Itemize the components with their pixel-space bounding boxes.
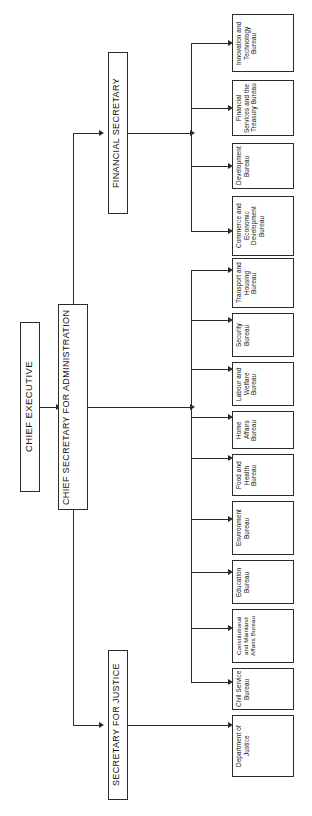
stub-csa-1 xyxy=(191,320,229,321)
label-constitutional-and-mainland-affairs-bureau: Constitutional and Mainland Affairs Bure… xyxy=(235,611,291,661)
label-home-affairs-bureau: Home Affairs Bureau xyxy=(235,413,291,447)
box-financial-services-and-the-treasury-bureau[interactable]: Financial Services and the Treasury Bure… xyxy=(232,80,294,136)
stub-csa-3 xyxy=(191,417,229,418)
label-environment-bureau: Environment Bureau xyxy=(235,503,291,553)
box-financial-secretary[interactable]: FINANCIAL SECRETARY xyxy=(108,52,128,214)
box-home-affairs-bureau[interactable]: Home Affairs Bureau xyxy=(232,411,294,449)
bus-chief-secretary xyxy=(191,270,192,682)
box-food-and-health-bureau[interactable]: Food and Health Bureau xyxy=(232,454,294,496)
label-education-bureau: Education Bureau xyxy=(235,562,291,602)
box-department-of-justice[interactable]: Department of Justice xyxy=(232,715,294,777)
label-financial-secretary: FINANCIAL SECRETARY xyxy=(111,78,125,188)
box-civil-service-bureau[interactable]: Civil Service Bureau xyxy=(232,668,294,710)
box-chief-secretary-for-administration[interactable]: CHIEF SECRETARY FOR ADMINISTRATION xyxy=(58,304,88,510)
box-innovation-and-technology-bureau[interactable]: Innovation and Technology Bureau xyxy=(232,14,294,72)
label-transport-and-housing-bureau: Transport and Housing Bureau xyxy=(235,260,291,306)
line-csa-to-fs xyxy=(73,133,100,134)
line-fs-trunk xyxy=(128,133,191,134)
box-secretary-for-justice[interactable]: SECRETARY FOR JUSTICE xyxy=(108,650,128,800)
label-development-bureau: Development Bureau xyxy=(235,145,291,187)
stub-csa-8 xyxy=(191,682,229,683)
box-constitutional-and-mainland-affairs-bureau[interactable]: Constitutional and Mainland Affairs Bure… xyxy=(232,609,294,663)
box-environment-bureau[interactable]: Environment Bureau xyxy=(232,501,294,555)
line-sj-trunk xyxy=(128,725,229,726)
box-development-bureau[interactable]: Development Bureau xyxy=(232,143,294,189)
stub-fs-0 xyxy=(191,43,229,44)
stub-csa-4 xyxy=(191,458,229,459)
box-education-bureau[interactable]: Education Bureau xyxy=(232,560,294,604)
spine-from-csa-lower xyxy=(73,510,74,725)
chart-canvas: CHIEF EXECUTIVE CHIEF SECRETARY FOR ADMI… xyxy=(0,0,312,816)
line-csa-to-sj xyxy=(73,725,100,726)
stub-fs-2 xyxy=(191,166,229,167)
box-transport-and-housing-bureau[interactable]: Transport and Housing Bureau xyxy=(232,258,294,308)
label-secretary-for-justice: SECRETARY FOR JUSTICE xyxy=(111,664,125,787)
stub-csa-5 xyxy=(191,519,229,520)
spine-from-csa xyxy=(73,133,74,304)
label-financial-services-and-the-treasury-bureau: Financial Services and the Treasury Bure… xyxy=(235,82,291,134)
stub-fs-1 xyxy=(191,108,229,109)
bus-financial-secretary xyxy=(191,43,192,231)
box-chief-executive[interactable]: CHIEF EXECUTIVE xyxy=(20,322,40,492)
stub-csa-6 xyxy=(191,572,229,573)
stub-csa-7 xyxy=(191,628,229,629)
label-civil-service-bureau: Civil Service Bureau xyxy=(235,670,291,708)
label-labour-and-welfare-bureau: Labour and Welfare Bureau xyxy=(235,364,291,404)
stub-fs-3 xyxy=(191,231,229,232)
stub-csa-0 xyxy=(191,270,229,271)
label-food-and-health-bureau: Food and Health Bureau xyxy=(235,456,291,494)
box-labour-and-welfare-bureau[interactable]: Labour and Welfare Bureau xyxy=(232,362,294,406)
label-chief-secretary-for-administration: CHIEF SECRETARY FOR ADMINISTRATION xyxy=(61,309,85,504)
label-commerce-and-economic-development-bureau: Commerce and Economic Development Bureau xyxy=(235,198,291,254)
label-chief-executive: CHIEF EXECUTIVE xyxy=(23,362,37,453)
box-security-bureau[interactable]: Security Bureau xyxy=(232,313,294,357)
arrow-csa-to-sj xyxy=(99,722,104,728)
stub-csa-2 xyxy=(191,369,229,370)
box-commerce-and-economic-development-bureau[interactable]: Commerce and Economic Development Bureau xyxy=(232,196,294,256)
label-innovation-and-technology-bureau: Innovation and Technology Bureau xyxy=(235,16,291,70)
label-department-of-justice: Department of Justice xyxy=(235,717,291,775)
label-security-bureau: Security Bureau xyxy=(235,315,291,355)
line-csa-trunk xyxy=(88,407,191,408)
arrow-csa-to-fs xyxy=(99,130,104,136)
